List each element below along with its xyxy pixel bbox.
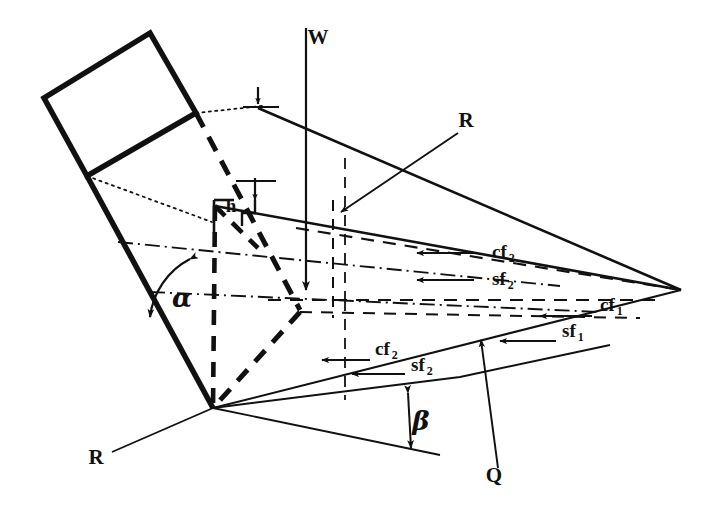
slab-block	[44, 33, 196, 176]
surcharge-label: Q	[486, 463, 502, 487]
hidden-back-ridge	[296, 228, 681, 290]
force-arrows	[322, 253, 592, 374]
figure-root: W R R Q h α β cf2sf2cf1sf1cf2sf2	[0, 0, 720, 512]
force-label-cf2-lower: cf2	[375, 338, 398, 362]
angle-beta-label: β	[411, 406, 429, 436]
reaction-upper-leader	[341, 133, 458, 212]
surcharge-leader	[481, 340, 498, 468]
wedge-free-body-diagram: W R R Q h α β cf2sf2cf1sf1cf2sf2	[0, 0, 720, 512]
wedge-top-face-edge	[215, 206, 681, 290]
reaction-upper-arrow	[341, 133, 458, 212]
reaction-lower-leader	[112, 408, 213, 452]
force-label-cf2-upper: cf2	[492, 241, 515, 265]
reaction-lower-label: R	[88, 445, 104, 469]
height-dimension	[214, 178, 276, 233]
reaction-upper-label: R	[458, 108, 474, 132]
surcharge-arrow	[481, 340, 498, 468]
force-label-sf1-right: sf1	[562, 320, 584, 344]
centerline-lower	[150, 292, 600, 312]
failure-wedge-dashed	[196, 113, 300, 408]
weight-label: W	[308, 25, 329, 49]
hidden-edges-dashed	[268, 200, 681, 318]
reaction-lower-line	[112, 408, 213, 452]
dashed-wedge-vertical	[213, 206, 215, 408]
force-label-sf2-lower: sf2	[411, 354, 433, 378]
force-label-sf2-upper: sf2	[492, 268, 514, 292]
top-dimension-tick	[243, 87, 279, 107]
angle-alpha-label: α	[172, 283, 192, 313]
slab-outline	[44, 33, 196, 176]
beta-base-line	[213, 408, 440, 455]
weight-vector	[306, 28, 345, 400]
wedge-upper-crest	[258, 108, 681, 290]
angle-beta-group	[213, 393, 440, 455]
dashed-wedge-lower-edge	[213, 312, 300, 408]
beta-arc-path	[408, 393, 411, 448]
force-label-group: cf2sf2cf1sf1cf2sf2	[375, 241, 623, 378]
height-label: h	[226, 195, 237, 216]
dashed-wedge-front-edge	[196, 113, 300, 310]
force-label-cf1-right: cf1	[600, 294, 623, 318]
